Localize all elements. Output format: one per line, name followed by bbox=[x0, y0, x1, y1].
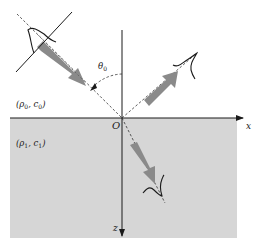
reflected-arrow bbox=[144, 71, 178, 106]
upper-medium-label: (ρ0, c0) bbox=[16, 100, 45, 110]
incidence-angle-label: θ0 bbox=[98, 62, 107, 72]
x-axis-label: x bbox=[246, 122, 251, 131]
lower-medium-region bbox=[10, 118, 237, 238]
reflected-ray-line bbox=[122, 52, 198, 118]
incidence-angle-arc bbox=[92, 74, 122, 88]
incident-ray-overlay bbox=[38, 35, 86, 83]
z-axis-label: z bbox=[113, 224, 118, 233]
origin-label: O bbox=[112, 121, 120, 131]
incident-arrow bbox=[37, 41, 86, 86]
lower-medium-label: (ρ1, c1) bbox=[16, 139, 45, 149]
wave-interface-diagram bbox=[0, 0, 267, 249]
